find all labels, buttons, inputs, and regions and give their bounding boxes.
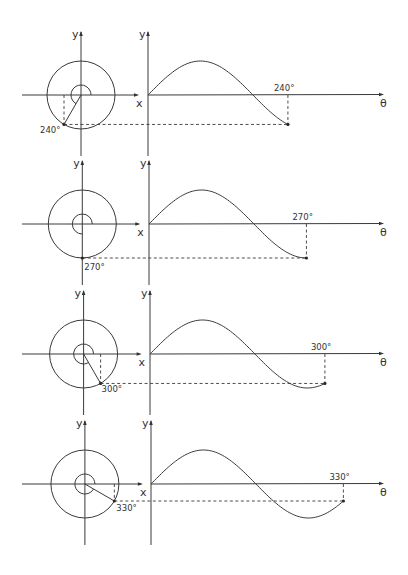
y-axis-label: y xyxy=(75,287,82,300)
graph-y-label: y xyxy=(141,287,148,300)
theta-arrow-icon xyxy=(379,222,384,226)
graph-angle-label: 330° xyxy=(329,472,349,482)
x-axis-label: x xyxy=(140,486,147,499)
theta-axis xyxy=(149,224,382,225)
y-axis-arrow-icon xyxy=(81,160,85,165)
sine-curve xyxy=(148,61,288,124)
theta-axis-label: θ xyxy=(380,97,387,110)
theta-arrow-icon xyxy=(379,352,384,356)
graph-angle-label: 270° xyxy=(292,212,312,222)
theta-axis xyxy=(151,484,382,485)
y-axis-label: y xyxy=(73,157,80,170)
x-axis-label: x xyxy=(136,97,143,110)
circle-angle-label: 270° xyxy=(84,262,104,272)
radius-line xyxy=(64,95,81,124)
y-axis-arrow-icon xyxy=(79,31,83,36)
x-axis-label: x xyxy=(137,226,144,239)
y-axis-arrow-icon xyxy=(83,420,87,425)
trig-diagram: yx240°yθ240°yx270°yθ270°yx300°yθ300°yx33… xyxy=(0,0,408,575)
graph-y-arrow-icon xyxy=(148,290,152,295)
theta-axis xyxy=(148,95,382,96)
graph-y-label: y xyxy=(139,28,146,41)
circle-angle-label: 330° xyxy=(116,503,136,513)
circle-angle-label: 300° xyxy=(102,384,122,394)
theta-axis-label: θ xyxy=(380,356,387,369)
y-axis-arrow-icon xyxy=(82,290,86,295)
theta-axis-label: θ xyxy=(380,486,387,499)
panel-330: yx330°yθ330° xyxy=(22,417,387,545)
graph-y-label: y xyxy=(142,417,149,430)
graph-y-label: y xyxy=(140,157,147,170)
graph-angle-label: 300° xyxy=(311,342,331,352)
panel-270: yx270°yθ270° xyxy=(22,157,387,285)
panel-240: yx240°yθ240° xyxy=(22,28,387,156)
graph-y-arrow-icon xyxy=(149,420,153,425)
circle-angle-label: 240° xyxy=(40,125,60,135)
theta-arrow-icon xyxy=(379,482,384,486)
theta-axis-label: θ xyxy=(380,226,387,239)
graph-angle-label: 240° xyxy=(274,83,294,93)
y-axis-label: y xyxy=(72,28,79,41)
theta-axis xyxy=(150,354,382,355)
y-axis-label: y xyxy=(76,417,83,430)
graph-y-arrow-icon xyxy=(146,31,150,36)
x-axis-label: x xyxy=(139,356,146,369)
radius-line xyxy=(84,354,101,383)
graph-y-arrow-icon xyxy=(147,160,151,165)
theta-arrow-icon xyxy=(379,93,384,97)
panel-300: yx300°yθ300° xyxy=(22,287,387,415)
